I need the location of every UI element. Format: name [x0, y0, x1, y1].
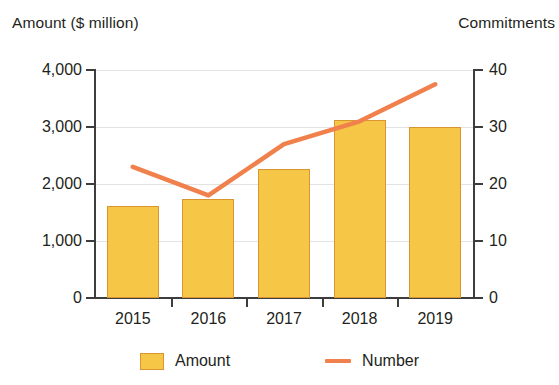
right-axis-tick-label: 0	[489, 290, 498, 306]
right-axis-tick-label: 40	[489, 62, 507, 78]
left-axis-tick-label: 1,000	[0, 233, 82, 249]
gridline	[95, 70, 473, 71]
left-axis-tick	[86, 69, 94, 71]
bar	[409, 127, 461, 298]
left-axis-tick-label: 4,000	[0, 62, 82, 78]
left-axis-tick	[86, 126, 94, 128]
x-axis-tick	[397, 299, 399, 307]
left-axis-tick-label: 3,000	[0, 119, 82, 135]
x-axis-tick-label: 2017	[249, 310, 319, 328]
legend-swatch-amount-icon	[140, 353, 164, 370]
left-axis-tick-label: 2,000	[0, 176, 82, 192]
x-axis-tick-label: 2019	[400, 310, 470, 328]
left-axis-tick-label: 0	[0, 290, 82, 306]
left-axis-title: Amount ($ million)	[12, 14, 139, 32]
left-axis-tick	[86, 240, 94, 242]
right-axis-line	[473, 69, 475, 299]
legend-swatch-number-icon	[325, 359, 351, 363]
x-axis-tick-label: 2016	[173, 310, 243, 328]
right-axis-title: Commitments	[458, 14, 555, 32]
right-axis-tick	[475, 183, 483, 185]
right-axis-tick	[475, 297, 483, 299]
left-axis-tick	[86, 183, 94, 185]
x-axis-tick-label: 2018	[325, 310, 395, 328]
chart-container: Amount ($ million) Commitments 01,0002,0…	[0, 0, 559, 385]
chart-legend: Amount Number	[0, 352, 559, 370]
bar	[258, 169, 310, 298]
right-axis-tick-label: 20	[489, 176, 507, 192]
legend-item-number: Number	[325, 352, 419, 370]
left-axis-line	[94, 69, 96, 299]
legend-label-amount: Amount	[175, 352, 230, 370]
bar	[107, 206, 159, 298]
right-axis-tick	[475, 69, 483, 71]
legend-item-amount: Amount	[140, 352, 230, 370]
right-axis-tick-label: 10	[489, 233, 507, 249]
left-axis-tick	[86, 297, 94, 299]
bar	[182, 199, 234, 298]
right-axis-tick	[475, 126, 483, 128]
right-axis-tick-label: 30	[489, 119, 507, 135]
bar	[334, 120, 386, 298]
x-axis-tick	[171, 299, 173, 307]
x-axis-tick	[322, 299, 324, 307]
right-axis-tick	[475, 240, 483, 242]
legend-label-number: Number	[362, 352, 419, 370]
x-axis-tick-label: 2015	[98, 310, 168, 328]
x-axis-tick	[246, 299, 248, 307]
